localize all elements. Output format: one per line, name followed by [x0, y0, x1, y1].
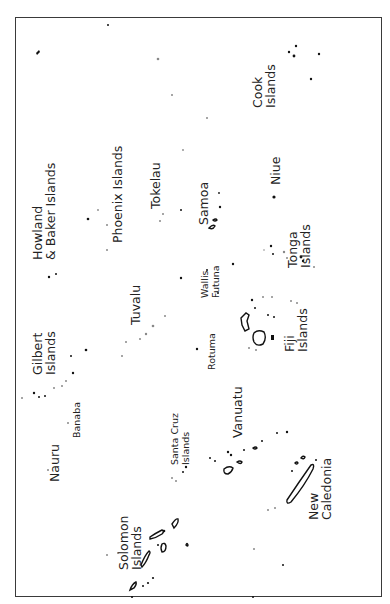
- map-label-wallis: Wallis: [199, 270, 210, 298]
- map-label-santacruz: Islands: [180, 432, 191, 465]
- map-label-rotuma: Rotuma: [206, 333, 217, 370]
- map-label-gilbert: Islands: [43, 331, 58, 375]
- map-label-nauru: Nauru: [47, 444, 62, 482]
- map-label-santacruz: Santa Cruz: [169, 413, 180, 465]
- map-label-newcal: Caledonia: [319, 458, 334, 520]
- map-label-vanuatu: Vanuatu: [230, 386, 245, 438]
- map-label-tokelau: Tokelau: [148, 162, 163, 210]
- map-label-banaba: Banaba: [71, 402, 82, 438]
- pacific-islands-map: CookIslandsNiueHowland& Baker IslandsPho…: [0, 0, 390, 604]
- islands-layer: [21, 24, 320, 598]
- map-label-niue: Niue: [268, 156, 283, 185]
- map-label-phoenix: Phoenix Islands: [110, 146, 125, 243]
- labels-layer: CookIslandsNiueHowland& Baker IslandsPho…: [30, 64, 334, 570]
- map-label-wallis: Futuna: [210, 265, 221, 298]
- island-marker: [36, 50, 40, 55]
- map-label-samoa: Samoa: [196, 182, 211, 225]
- map-label-tuvalu: Tuvalu: [128, 285, 143, 326]
- map-label-fiji: Islands: [295, 308, 310, 352]
- map-label-tonga: Islands: [298, 224, 313, 268]
- map-label-cook: Islands: [263, 64, 278, 108]
- map-label-howland: & Baker Islands: [43, 163, 58, 260]
- map-label-solomon: Islands: [129, 526, 144, 570]
